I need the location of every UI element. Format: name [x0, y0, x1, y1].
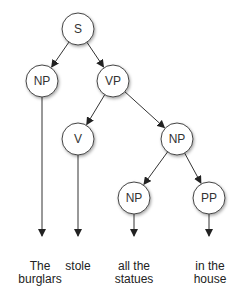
node-label: VP [105, 74, 121, 88]
node-label: NP [169, 132, 186, 146]
node-vp: VP [97, 65, 129, 97]
node-np1: NP [26, 65, 58, 97]
node-label: NP [126, 191, 143, 205]
leaf-edges [42, 97, 209, 236]
edge-vp-np2 [125, 92, 165, 128]
leaf-word: in thehouse [175, 260, 243, 286]
tree-edges [52, 42, 201, 184]
node-label: NP [34, 74, 51, 88]
cropped-text-row [0, 294, 243, 300]
parse-tree-diagram: SNPVPVNPNPPP [0, 0, 243, 300]
node-v: V [62, 123, 94, 155]
edge-np2-pp [185, 153, 201, 183]
tree-nodes: SNPVPVNPNPPP [26, 13, 225, 214]
edge-s-np1 [52, 42, 69, 67]
edge-vp-v [87, 95, 105, 125]
node-np3: NP [118, 182, 150, 214]
node-label: PP [201, 191, 217, 205]
node-s: S [62, 13, 94, 45]
node-label: S [74, 22, 82, 36]
node-pp: PP [193, 182, 225, 214]
node-np2: NP [161, 123, 193, 155]
node-label: V [74, 132, 82, 146]
edge-np2-np3 [144, 152, 168, 184]
leaf-word: all thestatues [99, 260, 169, 286]
edge-s-vp [87, 42, 104, 67]
